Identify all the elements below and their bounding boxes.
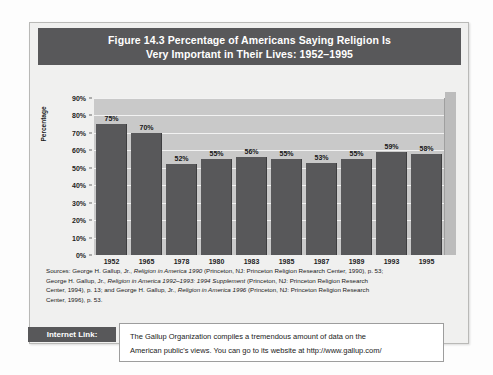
bar [201,159,233,255]
bar-value-label: 59% [384,143,398,150]
bar-slot: 56% [236,98,268,255]
y-tick-label: 0% [76,252,86,259]
bar-value-label: 53% [314,154,328,161]
bar [131,133,163,255]
bar-slot: 70% [131,98,163,255]
bar [96,124,128,255]
bar [411,154,443,255]
x-tick-label: 1965 [131,258,163,265]
y-axis-ticks: 90%80%70%60%50%40%30%20%10%0% [52,105,92,255]
plot-right-edge [445,92,456,255]
y-tick-label: 60% [72,147,86,154]
bar-slot: 55% [341,98,373,255]
source-line: Center, 1994), p. 13; and George H. Gall… [46,285,454,295]
bar-series: 75%70%52%55%56%55%53%55%59%58% [94,98,444,255]
y-tick-label: 90% [72,95,86,102]
bar-value-label: 55% [209,150,223,157]
y-tick-label: 70% [72,129,86,136]
plot-area: 75%70%52%55%56%55%53%55%59%58% [94,98,445,255]
page-background: Figure 14.3 Percentage of Americans Sayi… [0,0,493,375]
bar [271,159,303,255]
bar [166,164,198,255]
y-tick-mark [89,98,92,99]
bar-value-label: 58% [419,145,433,152]
internet-link-label-text: Internet Link: [47,330,98,339]
bar-slot: 53% [306,98,338,255]
y-tick-mark [89,132,92,133]
y-tick-label: 40% [72,182,86,189]
x-axis-labels: 1952196519781980198319851987198919931995 [94,258,444,265]
figure-title-line-1: Figure 14.3 Percentage of Americans Sayi… [108,33,391,47]
bar-chart: Percentage 90%80%70%60%50%40%30%20%10%0%… [38,73,461,273]
internet-link-label: Internet Link: [28,327,116,342]
source-line: Center, 1996), p. 53. [46,295,454,305]
x-tick-label: 1952 [96,258,128,265]
internet-link-text-line-2: American public's views. You can go to i… [130,344,443,358]
bar-value-label: 70% [139,124,153,131]
y-tick-label: 10% [72,234,86,241]
bar [376,152,408,255]
x-tick-label: 1995 [411,258,443,265]
y-tick-label: 20% [72,217,86,224]
y-tick-label: 30% [72,199,86,206]
y-tick-label: 80% [72,112,86,119]
bar-slot: 55% [271,98,303,255]
internet-link-callout: The Gallup Organization compiles a treme… [119,323,444,362]
y-tick-mark [89,115,92,116]
y-tick-label: 50% [72,164,86,171]
bar [306,163,338,255]
x-tick-label: 1983 [236,258,268,265]
bar-slot: 55% [201,98,233,255]
bar-value-label: 55% [279,150,293,157]
x-tick-label: 1989 [341,258,373,265]
bar-slot: 59% [376,98,408,255]
y-tick-mark [89,255,92,256]
y-axis-title: Percentage [40,128,47,142]
y-tick-mark [89,220,92,221]
bar-slot: 58% [411,98,443,255]
bar [236,157,268,255]
source-line: Sources: George H. Gallup, Jr., Religion… [46,266,454,276]
bar [341,159,373,255]
internet-link-text-line-1: The Gallup Organization compiles a treme… [130,330,443,344]
sources-note: Sources: George H. Gallup, Jr., Religion… [46,266,454,304]
x-tick-label: 1985 [271,258,303,265]
x-tick-label: 1993 [376,258,408,265]
x-tick-label: 1987 [306,258,338,265]
y-tick-mark [89,237,92,238]
bar-slot: 75% [96,98,128,255]
x-tick-label: 1980 [201,258,233,265]
bar-value-label: 52% [174,155,188,162]
y-tick-mark [89,185,92,186]
figure-title-line-2: Very Important in Their Lives: 1952–1995 [146,47,353,61]
bar-value-label: 55% [349,150,363,157]
y-tick-mark [89,167,92,168]
figure-title-banner: Figure 14.3 Percentage of Americans Sayi… [38,28,461,65]
bar-value-label: 56% [244,148,258,155]
source-line: George H. Gallup, Jr., Religion in Ameri… [46,276,454,286]
figure-container: Figure 14.3 Percentage of Americans Sayi… [29,22,469,344]
y-tick-mark [89,202,92,203]
x-tick-label: 1978 [166,258,198,265]
bar-slot: 52% [166,98,198,255]
y-tick-mark [89,150,92,151]
bar-value-label: 75% [104,115,118,122]
